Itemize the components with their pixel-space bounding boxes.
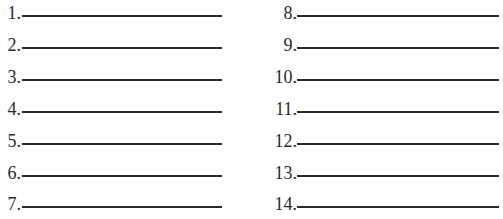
answer-blank[interactable] (297, 206, 499, 208)
answer-blank[interactable] (22, 79, 222, 81)
answer-blank[interactable] (22, 175, 222, 177)
item-number: 4. (8, 99, 22, 119)
answer-blank[interactable] (22, 111, 222, 113)
item-number: 7. (8, 194, 22, 214)
answer-blank[interactable] (297, 15, 499, 17)
item-number: 9. (284, 35, 298, 55)
item-number: 11. (275, 99, 297, 119)
item-number: 12. (275, 131, 298, 151)
answer-row: 11. (250, 99, 503, 119)
answer-row: 3. (0, 67, 250, 87)
item-number: 13. (275, 163, 298, 183)
answer-blank[interactable] (22, 15, 222, 17)
answer-row: 10. (250, 67, 503, 87)
answer-blank[interactable] (22, 143, 222, 145)
answer-blank[interactable] (22, 206, 222, 208)
answer-row: 4. (0, 99, 250, 119)
answer-blank[interactable] (297, 143, 499, 145)
item-number: 1. (8, 3, 22, 23)
item-number: 5. (8, 131, 22, 151)
answer-row: 2. (0, 35, 250, 55)
answer-blank[interactable] (297, 111, 499, 113)
answer-row: 6. (0, 163, 250, 183)
answer-row: 13. (250, 163, 503, 183)
item-number: 14. (275, 194, 298, 214)
answer-row: 5. (0, 131, 250, 151)
answer-row: 14. (250, 194, 503, 214)
answer-blank[interactable] (297, 79, 499, 81)
answer-blank[interactable] (22, 47, 222, 49)
answer-row: 7. (0, 194, 250, 214)
item-number: 10. (275, 67, 298, 87)
item-number: 2. (8, 35, 22, 55)
answer-row: 9. (250, 35, 503, 55)
answer-row: 12. (250, 131, 503, 151)
item-number: 8. (284, 3, 298, 23)
answer-row: 8. (250, 3, 503, 23)
item-number: 6. (8, 163, 22, 183)
answer-row: 1. (0, 3, 250, 23)
item-number: 3. (8, 67, 22, 87)
answer-blank[interactable] (297, 175, 499, 177)
answer-blank[interactable] (297, 47, 499, 49)
